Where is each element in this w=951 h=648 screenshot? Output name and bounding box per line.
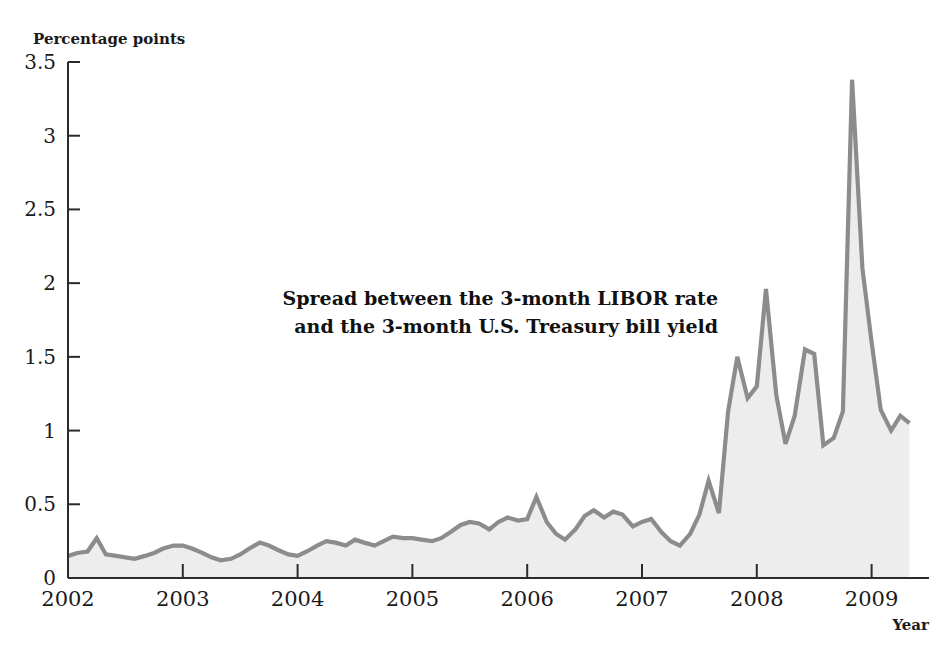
y-axis-title: Percentage points xyxy=(33,30,185,48)
y-tick-label: 3.5 xyxy=(24,50,56,74)
y-tick-label: 3 xyxy=(43,124,56,148)
x-tick-label: 2003 xyxy=(156,587,209,611)
x-tick-label: 2002 xyxy=(41,587,94,611)
x-tick-label: 2004 xyxy=(271,587,324,611)
y-tick-label: 1 xyxy=(43,419,56,443)
annotation-line-1: Spread between the 3-month LIBOR rate xyxy=(283,287,718,309)
y-tick-label: 2.5 xyxy=(24,197,56,221)
y-tick-label: 0.5 xyxy=(24,492,56,516)
x-tick-label: 2005 xyxy=(386,587,439,611)
x-tick-label: 2008 xyxy=(730,587,783,611)
x-tick-label: 2006 xyxy=(500,587,553,611)
y-axis-ticks: 00.511.522.533.5 xyxy=(24,50,80,590)
y-tick-label: 2 xyxy=(43,271,56,295)
x-tick-label: 2009 xyxy=(845,587,898,611)
x-axis-title: Year xyxy=(891,616,930,634)
y-tick-label: 1.5 xyxy=(24,345,56,369)
series-annotation: Spread between the 3-month LIBOR rate an… xyxy=(283,287,718,337)
x-tick-label: 2007 xyxy=(615,587,668,611)
libor-treasury-spread-chart: 00.511.522.533.5 20022003200420052006200… xyxy=(0,0,951,648)
annotation-line-2: and the 3-month U.S. Treasury bill yield xyxy=(294,315,718,337)
chart-page: 00.511.522.533.5 20022003200420052006200… xyxy=(0,0,951,648)
